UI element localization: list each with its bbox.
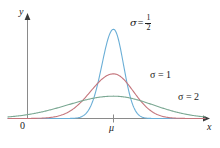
- fraction-denominator: 2: [145, 24, 151, 32]
- fraction-numerator: 1: [145, 14, 151, 22]
- fraction-one-half: 1 2: [145, 14, 151, 32]
- density-curve: [8, 96, 205, 117]
- normal-distribution-figure: y x 0 μ σ = 1 2 σ = 1 σ = 2: [0, 0, 220, 148]
- sigma-symbol: σ: [130, 18, 137, 28]
- density-curve: [8, 29, 205, 118]
- origin-label: 0: [20, 121, 25, 131]
- y-axis: [25, 13, 31, 119]
- y-axis-arrowhead: [25, 13, 31, 20]
- density-curves: [8, 29, 205, 118]
- curve-label-sigma-half: σ = 1 2: [130, 14, 151, 32]
- x-axis-label: x: [207, 122, 211, 132]
- equals-symbol: =: [137, 18, 145, 28]
- curve-label-sigma-one: σ = 1: [150, 70, 171, 80]
- y-axis-label: y: [19, 7, 23, 17]
- curve-label-sigma-two: σ = 2: [178, 92, 199, 102]
- mu-tick-label: μ: [109, 123, 114, 133]
